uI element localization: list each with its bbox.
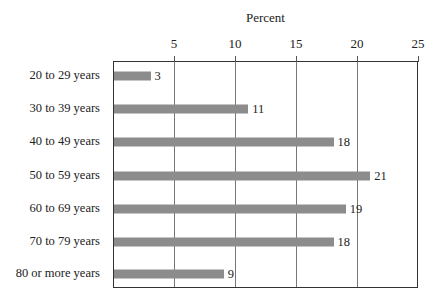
bar bbox=[114, 72, 151, 81]
category-label: 30 to 39 years bbox=[0, 101, 100, 116]
x-tick-label: 15 bbox=[290, 36, 303, 52]
bar-value-label: 11 bbox=[252, 102, 264, 117]
x-axis-title: Percent bbox=[0, 10, 441, 26]
bar bbox=[114, 105, 248, 114]
category-label: 80 or more years bbox=[0, 266, 100, 281]
x-tick bbox=[296, 56, 297, 62]
x-tick bbox=[357, 56, 358, 62]
bar-value-label: 21 bbox=[374, 169, 387, 184]
x-tick bbox=[418, 56, 419, 62]
bar-value-label: 18 bbox=[338, 135, 351, 150]
bar-value-label: 19 bbox=[350, 202, 363, 217]
bar bbox=[114, 172, 370, 181]
bar-value-label: 18 bbox=[338, 235, 351, 250]
x-tick-label: 25 bbox=[412, 36, 425, 52]
category-label: 60 to 69 years bbox=[0, 201, 100, 216]
x-tick-label: 10 bbox=[229, 36, 242, 52]
bar-value-label: 9 bbox=[228, 267, 234, 282]
category-label: 50 to 59 years bbox=[0, 168, 100, 183]
bar bbox=[114, 138, 334, 147]
bar bbox=[114, 238, 334, 247]
x-tick bbox=[235, 56, 236, 62]
x-tick bbox=[174, 56, 175, 62]
x-tick-label: 5 bbox=[171, 36, 178, 52]
category-label: 70 to 79 years bbox=[0, 234, 100, 249]
bar bbox=[114, 270, 224, 279]
category-label: 20 to 29 years bbox=[0, 68, 100, 83]
category-label: 40 to 49 years bbox=[0, 134, 100, 149]
bar-value-label: 3 bbox=[155, 69, 161, 84]
plot-area: 311182119189 bbox=[113, 61, 418, 288]
x-tick-label: 20 bbox=[351, 36, 364, 52]
bar bbox=[114, 205, 346, 214]
